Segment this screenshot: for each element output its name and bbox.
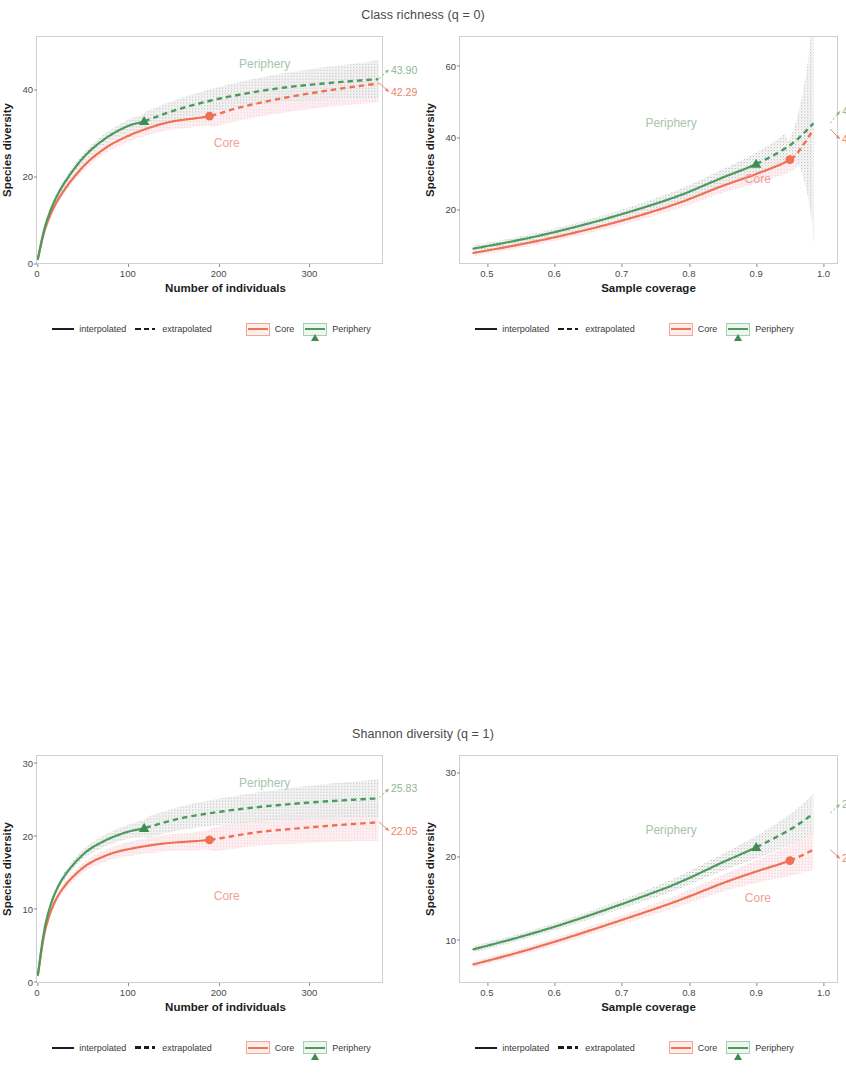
endpoint-label-core: 22.05	[842, 852, 846, 864]
annotation-periphery: Periphery	[239, 57, 290, 71]
legend-item-periphery: Periphery	[726, 323, 794, 336]
periphery-key-icon	[303, 323, 327, 336]
legend-label-interpolated: interpolated	[502, 324, 549, 334]
dashed-line-icon	[558, 1046, 580, 1049]
dash-seg	[575, 1046, 578, 1049]
periphery-key-icon	[303, 1041, 327, 1054]
legend-label-extrapolated: extrapolated	[585, 1043, 635, 1053]
periphery-key-icon	[726, 1041, 750, 1054]
panel-size-based-row2: Species diversity01020300100200300Periph…	[0, 749, 423, 1069]
endpoint-label-periphery: 25.83	[391, 782, 417, 794]
periphery-key-marker	[311, 324, 319, 334]
core-key-line	[248, 1047, 268, 1049]
confidence-band-periphery	[473, 37, 813, 252]
legend-label-core: Core	[275, 324, 295, 334]
dash-seg	[135, 1046, 141, 1049]
panels: Species diversity01020300100200300Periph…	[0, 749, 846, 1069]
triangle-marker-icon	[734, 1043, 742, 1060]
legend-label-interpolated: interpolated	[79, 324, 126, 334]
core-key-icon	[246, 1041, 270, 1054]
plot-area: Species diversity01020300100200300Periph…	[0, 749, 423, 1011]
legend-label-interpolated: interpolated	[502, 1043, 549, 1053]
y-tick-label: 40	[22, 84, 33, 95]
diversity-figure: Class richness (q = 0)Species diversity0…	[0, 0, 846, 1078]
plot-frame: 01020300100200300PeripheryCore	[36, 755, 383, 983]
y-tick-label: 20	[445, 204, 456, 215]
panel-size-based-row1: Species diversity020400100200300Peripher…	[0, 30, 423, 350]
legend-item-extrapolated: extrapolated	[558, 324, 635, 334]
legend-item-interpolated: interpolated	[475, 324, 549, 334]
x-tick-label: 0.6	[548, 987, 561, 998]
legend-label-core: Core	[275, 1043, 295, 1053]
plot-area: Species diversity020400100200300Peripher…	[0, 30, 423, 292]
annotation-periphery: Periphery	[645, 116, 696, 130]
chart-row-2: Shannon diversity (q = 1)Species diversi…	[0, 719, 846, 1078]
triangle-marker-icon	[734, 324, 742, 341]
solid-line-icon	[475, 328, 497, 330]
plot-frame: 2040600.50.60.70.80.91.0PeripheryCore	[459, 36, 838, 264]
endpoint-label-periphery: 43.90	[842, 105, 846, 117]
y-axis-title: Species diversity	[421, 30, 439, 270]
y-axis-title-text: Species diversity	[1, 103, 13, 197]
solid-line-icon	[52, 1047, 74, 1049]
legend: interpolatedextrapolatedCorePeriphery	[0, 318, 423, 340]
x-tick-label: 0.5	[480, 268, 493, 279]
panel-coverage-based-row1: Species diversity2040600.50.60.70.80.91.…	[423, 30, 846, 350]
confidence-band-core	[473, 37, 813, 256]
legend-item-core: Core	[246, 1041, 295, 1054]
marker-core-reference	[205, 835, 214, 844]
legend-label-periphery: Periphery	[332, 324, 371, 334]
dash-seg	[144, 328, 149, 331]
y-axis-title: Species diversity	[0, 30, 16, 270]
annotation-core: Core	[745, 891, 771, 905]
y-tick-label: 0	[28, 258, 33, 269]
x-tick-label: 0.7	[615, 268, 628, 279]
legend-item-extrapolated: extrapolated	[135, 1043, 212, 1053]
annotation-periphery: Periphery	[645, 823, 696, 837]
confidence-band-core	[38, 803, 378, 977]
legend-item-periphery: Periphery	[726, 1041, 794, 1054]
annotation-core: Core	[214, 889, 240, 903]
legend-label-periphery: Periphery	[755, 324, 794, 334]
dash-seg	[152, 1046, 155, 1049]
core-key-icon	[669, 323, 693, 336]
x-tick-label: 0	[34, 268, 39, 279]
solid-line-icon	[52, 328, 74, 330]
annotation-core: Core	[745, 172, 771, 186]
y-axis-title: Species diversity	[421, 749, 439, 989]
y-tick-label: 30	[22, 757, 33, 768]
row-title: Class richness (q = 0)	[0, 8, 846, 22]
legend-item-interpolated: interpolated	[475, 1043, 549, 1053]
dash-seg	[558, 1046, 564, 1049]
periphery-key-marker	[734, 324, 742, 334]
core-key-line	[248, 328, 268, 330]
dashed-line-icon	[558, 328, 580, 331]
y-tick-label: 20	[22, 171, 33, 182]
endpoint-label-core: 42.29	[391, 86, 417, 98]
endpoint-label-periphery: 25.83	[842, 798, 846, 810]
panels: Species diversity020400100200300Peripher…	[0, 30, 846, 350]
dash-seg	[144, 1046, 149, 1049]
core-key-line	[671, 1047, 691, 1049]
legend: interpolatedextrapolatedCorePeriphery	[423, 1037, 846, 1059]
curves-svg	[460, 756, 837, 982]
x-tick-label: 0.8	[682, 268, 695, 279]
legend: interpolatedextrapolatedCorePeriphery	[0, 1037, 423, 1059]
y-axis-title-text: Species diversity	[1, 822, 13, 916]
legend-label-core: Core	[698, 1043, 718, 1053]
confidence-band-periphery	[38, 779, 378, 977]
dash-seg	[152, 328, 155, 331]
x-tick-label: 0.6	[548, 268, 561, 279]
plot-area: Species diversity1020300.50.60.70.80.91.…	[423, 749, 846, 1011]
legend-label-periphery: Periphery	[332, 1043, 371, 1053]
chart-row-1: Class richness (q = 0)Species diversity0…	[0, 0, 846, 359]
x-tick-label: 0	[34, 987, 39, 998]
dash-seg	[567, 328, 572, 331]
dashed-line-icon	[135, 1046, 157, 1049]
plot-frame: 1020300.50.60.70.80.91.0PeripheryCore	[459, 755, 838, 983]
endpoint-label-core: 22.05	[391, 825, 417, 837]
x-tick-label: 0.9	[750, 987, 763, 998]
y-tick-label: 40	[445, 132, 456, 143]
dashed-line-icon	[135, 328, 157, 331]
plot-frame: 020400100200300PeripheryCore	[36, 36, 383, 264]
